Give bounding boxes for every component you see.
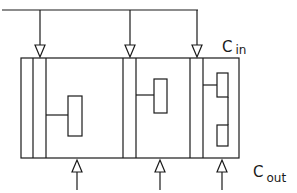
bottom-arrow-2-icon — [155, 160, 165, 172]
top-arrow-2-icon — [125, 45, 135, 57]
bottom-arrow-1-icon — [72, 160, 82, 172]
diagram-canvas: Cin Cout — [0, 0, 297, 193]
main-box — [21, 58, 239, 158]
section-3-block-upper — [217, 73, 228, 97]
section-1-block — [68, 96, 82, 136]
c-in-label: Cin — [222, 38, 246, 57]
section-2-block — [154, 79, 167, 113]
section-3-block-lower — [217, 125, 228, 146]
top-arrow-1-icon — [35, 45, 45, 57]
c-out-label: Cout — [253, 163, 286, 185]
bottom-arrow-3-icon — [217, 160, 227, 172]
top-arrow-3-icon — [192, 45, 202, 57]
